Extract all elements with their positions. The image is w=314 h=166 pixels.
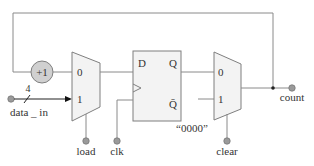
bus-width-label: 4 (26, 83, 31, 94)
load-label: load (77, 145, 96, 157)
mux-clear-input-0: 0 (218, 66, 224, 78)
mux-load-input-0: 0 (77, 66, 83, 78)
clear-label: clear (216, 145, 238, 157)
incrementer-label: +1 (36, 66, 48, 78)
data-in-label: data _ in (10, 106, 48, 118)
count-label: count (280, 91, 304, 103)
clk-port (114, 138, 120, 144)
d-flip-flop: D Q Q̄ (133, 51, 181, 121)
load-port (83, 138, 89, 144)
mux-clear: 0 1 (214, 52, 241, 120)
data-in-port (8, 96, 14, 102)
incrementer: +1 (31, 61, 53, 83)
arrow-icon (65, 96, 72, 102)
clk-label: clk (110, 145, 124, 157)
mux-load-input-1: 1 (77, 93, 83, 105)
counter-diagram: +1 4 data _ in 0 1 load D Q Q̄ clk “0000… (0, 0, 314, 166)
constant-zero-label: “0000” (176, 122, 208, 134)
ff-d-label: D (138, 57, 146, 69)
clear-port (224, 138, 230, 144)
junction-dot (271, 86, 275, 90)
data-in-bus: 4 data _ in (8, 83, 72, 118)
ff-qbar-label: Q̄ (169, 98, 177, 110)
mux-load: 0 1 (72, 52, 100, 121)
mux-clear-input-1: 1 (218, 93, 224, 105)
ff-q-label: Q (169, 57, 177, 69)
